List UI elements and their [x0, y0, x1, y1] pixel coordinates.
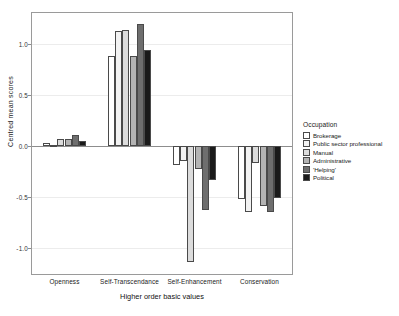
bar — [267, 146, 274, 212]
legend-item[interactable]: Administrative — [303, 157, 399, 165]
bar-group — [162, 13, 227, 274]
bar — [50, 145, 57, 147]
x-axis-tick-labels: OpennessSelf-TranscendanceSelf-Enhanceme… — [32, 278, 292, 290]
y-axis-tick-label: -0.5 — [16, 194, 28, 201]
chart-figure: 1.00.50.0-0.5-1.0 Centred mean scores Op… — [0, 0, 399, 316]
legend-item-label: Administrative — [313, 157, 351, 164]
x-axis-tick-label: Conservation — [240, 278, 279, 285]
bar — [79, 141, 86, 146]
legend-swatch — [303, 132, 310, 139]
legend-swatch — [303, 149, 310, 156]
legend-item-label: 'Helping' — [313, 166, 336, 173]
legend-swatch — [303, 140, 310, 147]
bar — [195, 146, 202, 169]
legend-item-label: Brokerage — [313, 132, 341, 139]
legend-rows: BrokeragePublic sector professionalManua… — [303, 131, 399, 182]
bar — [57, 139, 64, 146]
legend-swatch — [303, 174, 310, 181]
x-axis-tick-label: Openness — [50, 278, 80, 285]
legend-item-label: Public sector professional — [313, 140, 382, 147]
bar — [115, 31, 122, 146]
legend: Occupation BrokeragePublic sector profes… — [303, 121, 399, 182]
bar — [173, 146, 180, 165]
bar — [274, 146, 281, 198]
legend-swatch — [303, 166, 310, 173]
bar — [252, 146, 259, 163]
bar — [245, 146, 252, 212]
x-axis-tick-label: Self-Enhancement — [167, 278, 221, 285]
bar — [137, 24, 144, 146]
bar — [144, 50, 151, 146]
legend-item[interactable]: Political — [303, 174, 399, 182]
legend-item[interactable]: Brokerage — [303, 131, 399, 139]
y-axis-tick-label: 1.0 — [19, 40, 28, 47]
legend-item-label: Political — [313, 174, 334, 181]
legend-item[interactable]: Manual — [303, 148, 399, 156]
bar — [122, 30, 129, 146]
legend-title: Occupation — [303, 121, 399, 128]
legend-swatch — [303, 157, 310, 164]
bar — [65, 139, 72, 146]
bar — [72, 135, 79, 146]
bar — [43, 143, 50, 146]
bar — [130, 56, 137, 146]
y-axis-tick-label: 0.5 — [19, 91, 28, 98]
y-axis-tick-labels: 1.00.50.0-0.5-1.0 — [0, 13, 28, 274]
x-axis-tick-label: Self-Transcendance — [100, 278, 159, 285]
x-axis-title: Higher order basic values — [32, 292, 292, 301]
bar — [187, 146, 194, 262]
y-axis-tick-label: -1.0 — [16, 245, 28, 252]
bar — [202, 146, 209, 209]
y-axis-title: Centred mean scores — [7, 47, 14, 177]
bar — [209, 146, 216, 180]
bar — [180, 146, 187, 161]
legend-item-label: Manual — [313, 149, 333, 156]
plot-area — [32, 13, 292, 274]
legend-item[interactable]: 'Helping' — [303, 165, 399, 173]
legend-item[interactable]: Public sector professional — [303, 140, 399, 148]
bar — [260, 146, 267, 206]
bar — [238, 146, 245, 199]
bar-group — [32, 13, 97, 274]
bar — [108, 56, 115, 146]
bar-group — [227, 13, 292, 274]
y-axis-tick-label: 0.0 — [19, 143, 28, 150]
bar-group — [97, 13, 162, 274]
